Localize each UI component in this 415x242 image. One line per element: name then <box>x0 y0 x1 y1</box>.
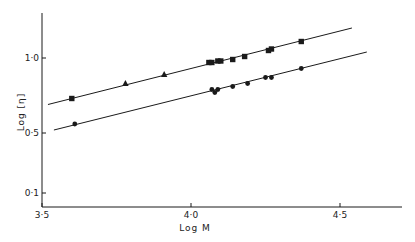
triangle-marker <box>161 71 167 77</box>
x-tick-label: 4·0 <box>184 210 199 220</box>
circle-marker <box>230 84 235 89</box>
y-tick-label: 0·5 <box>25 128 39 138</box>
axes <box>42 13 402 207</box>
circle-marker <box>263 75 268 80</box>
square-marker <box>69 96 74 101</box>
y-ticks: 0·10·51·0 <box>25 53 46 198</box>
x-tick-label: 3·5 <box>35 210 49 220</box>
square-marker <box>242 54 247 59</box>
circle-marker <box>215 87 220 92</box>
x-axis-label: Log M <box>179 223 211 233</box>
circle-marker <box>72 122 77 127</box>
triangle-marker <box>122 80 128 86</box>
circle-marker <box>299 66 304 71</box>
fit-lines <box>48 28 367 130</box>
data-markers <box>69 39 304 127</box>
square-marker <box>269 46 274 51</box>
y-axis-label: Log [η] <box>16 93 26 132</box>
square-marker <box>218 58 223 63</box>
square-marker <box>209 60 214 65</box>
x-tick-label: 4·5 <box>333 210 347 220</box>
y-tick-label: 0·1 <box>25 188 39 198</box>
square-marker <box>230 57 235 62</box>
square-marker <box>299 39 304 44</box>
circle-marker <box>245 81 250 86</box>
scatter-chart: 3·54·04·5 0·10·51·0 Log M Log [η] <box>0 0 415 242</box>
x-ticks: 3·54·04·5 <box>35 203 347 220</box>
circle-marker <box>269 75 274 80</box>
y-tick-label: 1·0 <box>25 53 40 63</box>
upper-fit-line <box>48 28 352 105</box>
